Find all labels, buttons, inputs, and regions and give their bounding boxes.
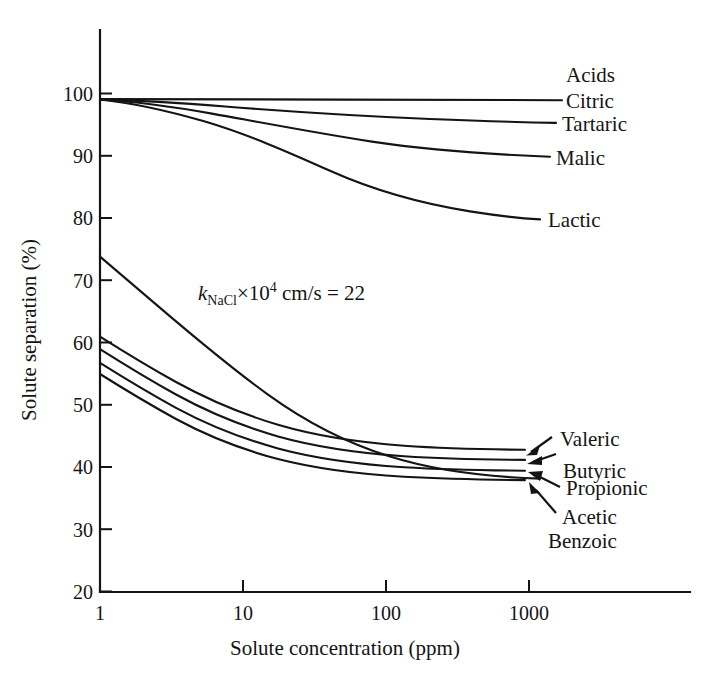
- curve-propionic: [100, 363, 525, 471]
- valeric-arrow-head: [526, 446, 540, 456]
- y-tick-label-90: 90: [73, 145, 93, 167]
- label-citric: Citric: [566, 89, 614, 113]
- knacl-times: ×: [237, 281, 249, 305]
- curve-citric: [100, 99, 562, 100]
- curve-malic: [100, 100, 550, 157]
- label-valeric: Valeric: [560, 427, 619, 451]
- label-propionic: Propionic: [566, 476, 648, 500]
- propionic-arrow-head: [528, 471, 543, 481]
- x-tick-label-1000: 1000: [509, 602, 549, 624]
- upper-labels-group: Acids Citric Tartaric Malic Lactic: [548, 63, 627, 232]
- x-ticks-group: [100, 580, 529, 592]
- y-tick-label-100: 100: [63, 83, 93, 105]
- y-tick-label-50: 50: [73, 394, 93, 416]
- label-acetic: Acetic: [562, 505, 617, 529]
- acetic-arrow-head: [529, 482, 540, 494]
- solute-separation-chart: 100 90 80 70 60 50 40 30 20 1 10 100 100…: [0, 0, 708, 684]
- curve-butyric: [100, 349, 525, 460]
- acetic-pointer: [529, 482, 556, 513]
- valeric-pointer: [526, 437, 552, 456]
- lower-labels-group: Valeric Butyric Propionic Acetic Benzoic: [526, 427, 648, 553]
- x-axis-title: Solute concentration (ppm): [230, 636, 460, 660]
- butyric-pointer: [527, 454, 556, 465]
- x-tick-label-1: 1: [95, 602, 105, 624]
- knacl-annotation: kNaCl×104 cm/s = 22: [198, 280, 365, 308]
- knacl-base: 10: [249, 281, 270, 305]
- curve-valeric: [100, 337, 525, 450]
- curves-group-upper: [100, 99, 562, 219]
- curve-acetic: [100, 374, 525, 480]
- y-tick-label-70: 70: [73, 270, 93, 292]
- acids-group-header: Acids: [566, 63, 615, 87]
- y-tick-label-40: 40: [73, 456, 93, 478]
- y-tick-label-80: 80: [73, 207, 93, 229]
- label-lactic: Lactic: [548, 208, 600, 232]
- knacl-exponent: 4: [270, 280, 277, 295]
- y-tick-label-30: 30: [73, 519, 93, 541]
- y-tick-label-60: 60: [73, 332, 93, 354]
- acetic-arrow-line: [536, 490, 556, 513]
- y-axis-title: Solute separation (%): [17, 239, 41, 421]
- curve-lactic: [100, 100, 540, 220]
- chart-figure: 100 90 80 70 60 50 40 30 20 1 10 100 100…: [0, 0, 708, 684]
- y-tick-label-20: 20: [73, 581, 93, 603]
- knacl-units: cm/s = 22: [277, 281, 365, 305]
- label-tartaric: Tartaric: [562, 112, 627, 136]
- butyric-arrow-head: [527, 456, 542, 465]
- knacl-subscript: NaCl: [207, 293, 237, 308]
- x-tick-label-100: 100: [371, 602, 401, 624]
- x-tick-labels-group: 1 10 100 1000: [95, 602, 549, 624]
- label-malic: Malic: [556, 146, 605, 170]
- y-tick-labels-group: 100 90 80 70 60 50 40 30 20: [63, 83, 93, 603]
- x-tick-label-10: 10: [233, 602, 253, 624]
- label-benzoic: Benzoic: [548, 529, 617, 553]
